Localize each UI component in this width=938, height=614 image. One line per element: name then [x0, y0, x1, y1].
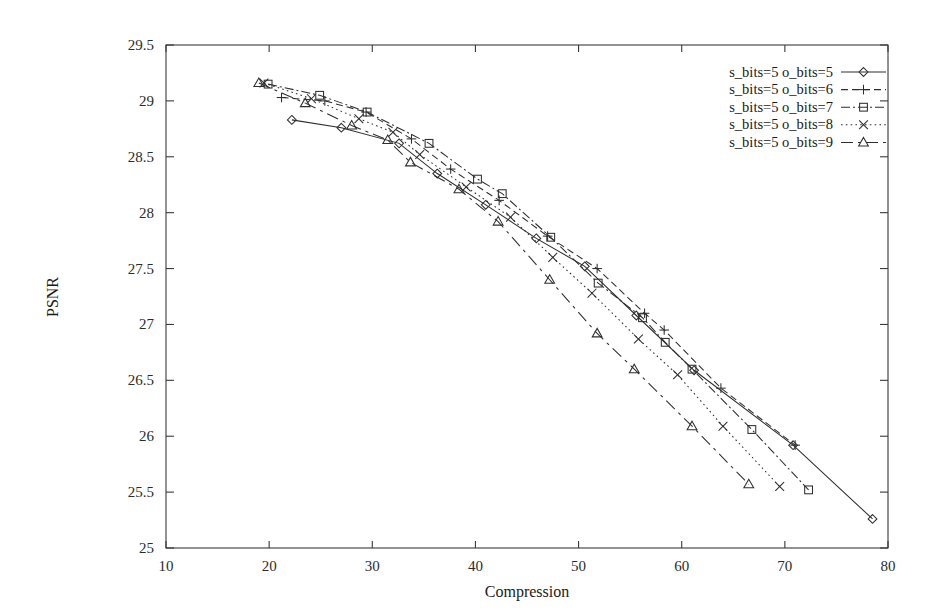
y-tick-label: 29.5	[128, 37, 154, 53]
x-tick-label: 10	[159, 558, 174, 574]
legend-label-3: s_bits=5 o_bits=8	[729, 116, 833, 132]
x-tick-label: 70	[777, 558, 792, 574]
legend: s_bits=5 o_bits=5s_bits=5 o_bits=6s_bits…	[729, 64, 886, 150]
x-tick-label: 30	[365, 558, 380, 574]
series-line-3	[264, 83, 780, 487]
y-tick-label: 25	[139, 540, 154, 556]
series-2-marker-4	[474, 175, 482, 183]
y-tick-label: 28.5	[128, 149, 154, 165]
series-line-2	[268, 84, 808, 490]
y-tick-label: 25.5	[128, 484, 154, 500]
series-0	[287, 115, 876, 523]
y-tick-label: 29	[139, 93, 154, 109]
y-tick-label: 26.5	[128, 372, 154, 388]
legend-label-0: s_bits=5 o_bits=5	[729, 64, 833, 80]
legend-marker-4	[859, 137, 869, 146]
x-tick-label: 20	[262, 558, 277, 574]
x-tick-label: 40	[468, 558, 483, 574]
x-tick-label: 80	[881, 558, 896, 574]
y-axis-tick-labels: 2525.52626.52727.52828.52929.5	[128, 37, 155, 556]
legend-label-4: s_bits=5 o_bits=9	[729, 134, 833, 150]
series-3	[260, 79, 785, 491]
series-4-marker-9	[629, 364, 639, 373]
x-tick-label: 60	[674, 558, 689, 574]
series-4-marker-2	[347, 120, 357, 128]
legend-label-2: s_bits=5 o_bits=7	[729, 99, 833, 115]
y-axis-title: PSNR	[44, 277, 61, 317]
y-tick-label: 27.5	[128, 261, 154, 277]
y-tick-label: 28	[139, 205, 154, 221]
x-axis-title: Compression	[485, 583, 569, 601]
series-4-marker-11	[744, 479, 754, 488]
series-line-4	[259, 83, 749, 484]
series-line-1	[282, 98, 796, 446]
legend-label-1: s_bits=5 o_bits=6	[729, 81, 833, 97]
y-tick-label: 26	[139, 428, 155, 444]
series-4	[254, 78, 754, 488]
x-tick-label: 50	[571, 558, 586, 574]
x-axis-tick-labels: 1020304050607080	[159, 558, 896, 574]
y-tick-label: 27	[139, 316, 155, 332]
series-4-marker-6	[493, 217, 503, 226]
psnr-compression-plot: 1020304050607080 2525.52626.52727.52828.…	[0, 0, 938, 614]
chart-figure: 1020304050607080 2525.52626.52727.52828.…	[0, 0, 938, 614]
series-line-0	[292, 120, 873, 519]
series-1	[277, 93, 800, 450]
